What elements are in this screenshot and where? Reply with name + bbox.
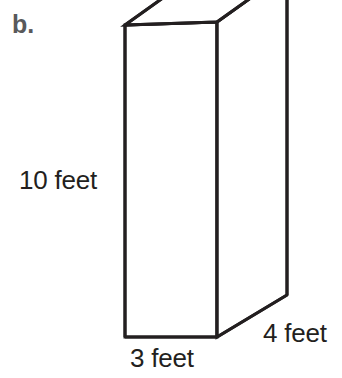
width-dimension-label: 3 feet [130, 345, 194, 371]
depth-dimension-label: 4 feet [263, 320, 327, 346]
prism-right-face [217, 0, 287, 337]
part-label: b. [12, 12, 34, 37]
prism-front-face [125, 22, 217, 337]
height-dimension-label: 10 feet [19, 167, 97, 193]
figure-canvas: b. 10 feet 3 feet 4 feet [0, 0, 342, 378]
